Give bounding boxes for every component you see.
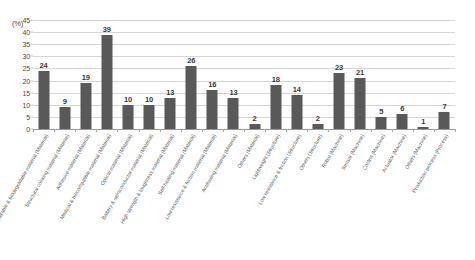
bar-value-label: 13 xyxy=(229,88,237,97)
x-axis-tickmark xyxy=(54,129,55,132)
bar-slot: 26 xyxy=(181,20,202,129)
bar-value-label: 39 xyxy=(103,25,111,34)
bar-value-label: 13 xyxy=(166,88,174,97)
bar[interactable] xyxy=(101,35,112,129)
y-axis-tick-label: 25 xyxy=(23,65,30,72)
bar-value-label: 26 xyxy=(187,56,195,65)
bar-slot: 2 xyxy=(307,20,328,129)
bar[interactable] xyxy=(376,117,387,129)
bar-slot: 16 xyxy=(202,20,223,129)
bar-slot: 5 xyxy=(371,20,392,129)
x-axis-tickmark xyxy=(413,129,414,132)
y-axis-unit-label: (%) xyxy=(12,19,23,28)
bar-value-label: 2 xyxy=(253,114,257,123)
x-axis-tickmark xyxy=(33,129,34,132)
bar-value-label: 14 xyxy=(293,85,301,94)
bar-value-label: 10 xyxy=(124,95,132,104)
x-axis-tickmark xyxy=(371,129,372,132)
bar[interactable] xyxy=(439,112,450,129)
bar-slot: 1 xyxy=(413,20,434,129)
bar-value-label: 21 xyxy=(356,68,364,77)
bar-value-label: 7 xyxy=(442,102,446,111)
bar-slot: 39 xyxy=(96,20,117,129)
bar-slot: 24 xyxy=(33,20,54,129)
bar-value-label: 18 xyxy=(272,75,280,84)
bar[interactable] xyxy=(59,107,70,129)
bar-chart: (%) 051015202530354045 24919391010132616… xyxy=(0,0,475,260)
bar-value-label: 9 xyxy=(63,97,67,106)
x-axis-tickmark xyxy=(392,129,393,132)
bar-slot: 18 xyxy=(265,20,286,129)
x-axis-category-label-text: Low resistance & friction (Structure) xyxy=(257,133,302,206)
bar-slot: 19 xyxy=(75,20,96,129)
bar-series: 249193910101326161321814223215617 xyxy=(33,20,455,129)
bar-slot: 13 xyxy=(160,20,181,129)
x-axis-tickmark xyxy=(96,129,97,132)
x-axis-tickmark xyxy=(117,129,118,132)
bar-value-label: 10 xyxy=(145,95,153,104)
bar-slot: 10 xyxy=(117,20,138,129)
x-axis-tickmark xyxy=(139,129,140,132)
x-axis-tickmark xyxy=(307,129,308,132)
x-axis-category-label-text: Others (Material) xyxy=(236,133,260,169)
bar[interactable] xyxy=(186,66,197,129)
x-axis-tickmark xyxy=(434,129,435,132)
y-axis-tick-label: 35 xyxy=(23,41,30,48)
x-axis-tickmark xyxy=(160,129,161,132)
x-axis-tickmark xyxy=(202,129,203,132)
y-axis-tick-label: 30 xyxy=(23,53,30,60)
bar-slot: 13 xyxy=(223,20,244,129)
bar[interactable] xyxy=(333,73,344,129)
bar-value-label: 24 xyxy=(40,61,48,70)
bar-value-label: 1 xyxy=(421,117,425,126)
x-axis-category-label-text: Robot (Machine) xyxy=(320,133,344,169)
x-axis-tickmark xyxy=(350,129,351,132)
x-axis-tickmark xyxy=(223,129,224,132)
bar[interactable] xyxy=(122,105,133,129)
bar-value-label: 16 xyxy=(208,80,216,89)
x-axis-category-labels: Repairable & biodegradable material (Mat… xyxy=(33,133,455,253)
y-axis-tick-label: 45 xyxy=(23,17,30,24)
x-axis-tickmark xyxy=(75,129,76,132)
bar[interactable] xyxy=(270,85,281,129)
bar[interactable] xyxy=(38,71,49,129)
bar-slot: 14 xyxy=(286,20,307,129)
bar-value-label: 19 xyxy=(82,73,90,82)
x-axis-category-label-text: Self-healing material (Material) xyxy=(157,133,197,196)
x-axis-tickmark xyxy=(181,129,182,132)
bar[interactable] xyxy=(228,98,239,129)
bar-value-label: 5 xyxy=(379,107,383,116)
plot-area: 051015202530354045 249193910101326161321… xyxy=(33,20,455,129)
bar[interactable] xyxy=(144,105,155,129)
x-axis-tickmark xyxy=(265,129,266,132)
bar-slot: 7 xyxy=(434,20,455,129)
bar[interactable] xyxy=(355,78,366,129)
y-axis-tick-label: 20 xyxy=(23,77,30,84)
bar[interactable] xyxy=(397,114,408,129)
bar[interactable] xyxy=(207,90,218,129)
bar-slot: 6 xyxy=(392,20,413,129)
x-axis-tickmark xyxy=(244,129,245,132)
bar-value-label: 2 xyxy=(316,114,320,123)
bar-slot: 10 xyxy=(139,20,160,129)
bar-slot: 21 xyxy=(350,20,371,129)
bar-value-label: 6 xyxy=(400,104,404,113)
bar-slot: 2 xyxy=(244,20,265,129)
bar[interactable] xyxy=(291,95,302,129)
bar[interactable] xyxy=(165,98,176,129)
x-axis-tickmark xyxy=(286,129,287,132)
bar-value-label: 23 xyxy=(335,63,343,72)
bar-slot: 9 xyxy=(54,20,75,129)
y-axis-tick-label: 10 xyxy=(23,101,30,108)
y-axis-tick-label: 40 xyxy=(23,29,30,36)
y-axis-tick-label: 15 xyxy=(23,89,30,96)
x-axis-tickmark xyxy=(455,129,456,132)
bar-slot: 23 xyxy=(328,20,349,129)
x-axis-tickmark xyxy=(328,129,329,132)
bar[interactable] xyxy=(80,83,91,129)
